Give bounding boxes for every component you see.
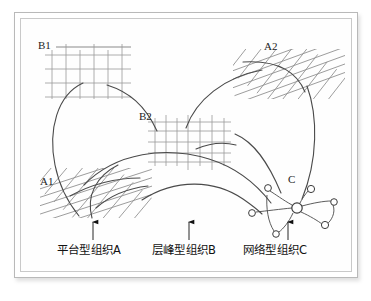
network-satellite-node (249, 210, 256, 217)
network-satellite-node (273, 231, 280, 238)
network-hub-node (292, 203, 302, 213)
curve-right-inner (235, 134, 281, 193)
network-satellite-node (321, 221, 328, 228)
curve-right-down (302, 86, 315, 199)
region-label-a2: A2 (264, 41, 277, 52)
curve-left-outer (53, 83, 83, 216)
edge-n3-n4 (327, 205, 334, 224)
edge-n5-n1 (267, 195, 274, 231)
network-satellite-node (331, 199, 338, 206)
edge-hub-n3 (302, 201, 331, 206)
curve-mid-sweep (84, 153, 271, 203)
caption-network-organization: 网络型组织C (243, 245, 307, 257)
edge-hub-n4 (301, 212, 322, 224)
figure-container: B1 A2 B2 A1 C 平台型组织A 层峰型组织B 网络型组织C (0, 0, 371, 301)
curve-low-sweep (142, 184, 262, 214)
region-label-b2: B2 (139, 111, 152, 122)
edge-hub-n5 (279, 213, 293, 232)
caption-hierarchy-organization: 层峰型组织B (152, 245, 216, 257)
grid-B2 (148, 115, 231, 170)
curve-right-top (243, 62, 305, 92)
curve-B2-detail (196, 143, 236, 149)
edge-hub-n6 (256, 208, 292, 212)
curve-A1-detail-2 (96, 186, 148, 208)
caption-arrows (93, 222, 288, 240)
caption-platform-organization: 平台型组织A (57, 245, 121, 257)
region-label-c: C (288, 174, 295, 185)
region-label-b1: B1 (38, 40, 51, 51)
region-label-a1: A1 (40, 176, 53, 187)
mesh-A1 (33, 136, 159, 248)
network-satellite-node (265, 185, 272, 192)
grid-B1 (45, 44, 131, 99)
network-satellite-node (307, 185, 314, 192)
curve-left-inner (107, 85, 157, 131)
